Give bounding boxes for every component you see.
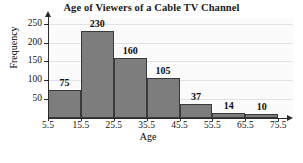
bar-value-label: 105 (147, 66, 180, 76)
histogram-bar (48, 90, 81, 118)
y-axis-line (48, 16, 49, 118)
x-tick-label: 75.5 (270, 120, 287, 130)
y-tick-label: 150 (28, 57, 42, 67)
bar-value-label: 14 (212, 101, 245, 111)
y-tick-label: 250 (28, 19, 42, 29)
x-tick-label: 35.5 (138, 120, 155, 130)
bar-value-label: 230 (81, 19, 114, 29)
x-tick-label: 15.5 (73, 120, 90, 130)
histogram-bar (147, 78, 180, 118)
x-axis-arrow-icon (287, 115, 293, 121)
y-tick-label: 50 (33, 94, 43, 104)
x-tick-label: 55.5 (204, 120, 221, 130)
y-tick-label: 200 (28, 38, 42, 48)
bar-value-label: 160 (114, 46, 147, 56)
x-tick-label: 65.5 (237, 120, 254, 130)
y-tick-label: 100 (28, 76, 42, 86)
x-tick-label: 25.5 (105, 120, 122, 130)
histogram-bar (114, 58, 147, 118)
x-tick-label: 5.5 (42, 120, 54, 130)
bar-value-label: 75 (48, 78, 81, 88)
x-axis-title: Age (44, 131, 252, 143)
histogram-bar (180, 104, 213, 118)
x-tick-label: 45.5 (171, 120, 188, 130)
y-axis-arrow-icon (45, 11, 51, 17)
bar-value-label: 37 (180, 92, 213, 102)
y-axis-title: Frequency (8, 13, 19, 83)
bar-value-label: 10 (245, 102, 278, 112)
histogram-figure: Age of Viewers of a Cable TV Channel Fre… (0, 0, 303, 163)
histogram-bar (81, 31, 114, 118)
